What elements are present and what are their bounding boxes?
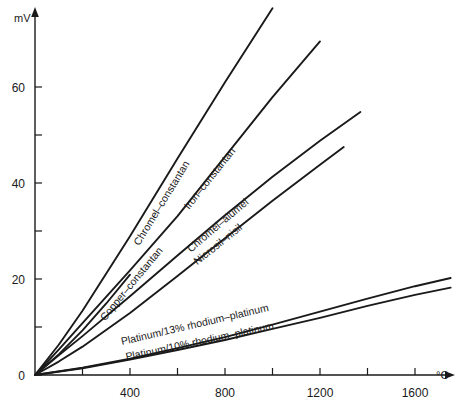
thermocouple-output-chart: mV °C 400800120016000204060 Chromel–cons…: [0, 0, 466, 408]
series-label: Iron–constantan: [181, 145, 237, 211]
y-axis-arrowhead: [31, 7, 39, 17]
series-label-text: Copper–constantan: [97, 244, 165, 322]
y-tick-label: 20: [12, 273, 26, 287]
y-tick-label: 0: [18, 369, 25, 383]
x-tick-label: 1600: [402, 386, 429, 400]
y-tick-label: 60: [12, 81, 26, 95]
y-axis-title: mV: [14, 12, 31, 24]
x-tick-label: 800: [215, 386, 235, 400]
series-label-text: Iron–constantan: [181, 145, 237, 211]
x-tick-label: 1200: [307, 386, 334, 400]
x-axis-title: °C: [436, 369, 448, 381]
chart-canvas: mV °C 400800120016000204060 Chromel–cons…: [0, 0, 466, 408]
x-tick-label: 400: [120, 386, 140, 400]
series-group: [35, 8, 451, 375]
series-labels-group: Chromel–constantanIron–constantanChromel…: [97, 145, 275, 363]
axes-group: [31, 7, 455, 379]
y-tick-label: 40: [12, 177, 26, 191]
series-label: Copper–constantan: [97, 244, 165, 322]
